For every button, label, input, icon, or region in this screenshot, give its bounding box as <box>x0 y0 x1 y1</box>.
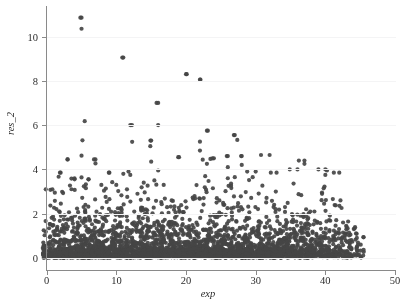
y-tick-2 <box>42 214 47 215</box>
gridline-y-4 <box>47 169 396 170</box>
gridline-y-0 <box>47 258 396 259</box>
y-axis-line <box>46 6 47 270</box>
scatter-points-canvas <box>0 0 416 307</box>
y-tick-6 <box>42 125 47 126</box>
x-axis-line <box>46 270 396 271</box>
x-tick-label-20: 20 <box>181 275 192 286</box>
x-tick-label-10: 10 <box>111 275 122 286</box>
y-tick-10 <box>42 37 47 38</box>
x-tick-label-50: 50 <box>390 275 401 286</box>
scatter-plot-figure: 0246810 01020304050 exp res_2 <box>0 0 416 307</box>
y-tick-label-10: 10 <box>28 31 39 42</box>
x-tick-label-40: 40 <box>320 275 331 286</box>
gridline-y-2 <box>47 214 396 215</box>
y-tick-4 <box>42 169 47 170</box>
y-tick-8 <box>42 81 47 82</box>
y-axis-tick-labels: 0246810 <box>0 0 38 307</box>
y-tick-label-4: 4 <box>33 164 38 175</box>
gridline-y-8 <box>47 81 396 82</box>
gridline-y-6 <box>47 125 396 126</box>
x-tick-label-0: 0 <box>44 275 49 286</box>
y-axis-title: res_2 <box>5 100 16 148</box>
x-axis-title: exp <box>0 288 416 299</box>
y-tick-label-0: 0 <box>33 253 38 264</box>
gridline-y-10 <box>47 37 396 38</box>
y-tick-label-6: 6 <box>33 120 38 131</box>
y-tick-label-8: 8 <box>33 75 38 86</box>
x-tick-label-30: 30 <box>250 275 261 286</box>
y-tick-label-2: 2 <box>33 208 38 219</box>
y-tick-0 <box>42 258 47 259</box>
